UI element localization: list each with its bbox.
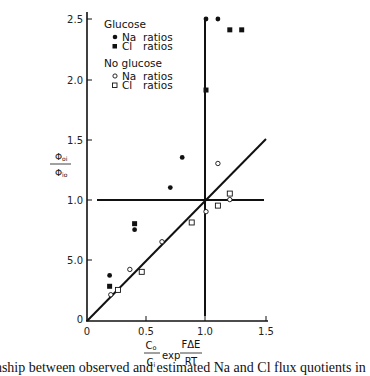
open-circle-point [216,161,220,165]
filled-circle-point [204,17,209,22]
filled-circle-point [216,17,221,22]
svg-text:ratios: ratios [143,79,173,91]
filled-circle-point [180,155,185,160]
y-tick-label: 1.0 [67,195,83,206]
y-tick-label: 1.5 [67,135,83,146]
open-circle-point [109,293,113,297]
filled-circle-point [132,227,137,232]
svg-text:Co: Co [146,340,157,352]
figure-caption: lationship between observed and estimate… [0,360,370,376]
filled-square-point [239,27,244,32]
svg-text:Φoi: Φoi [55,152,68,162]
identity-line [87,139,266,321]
open-square-icon [113,83,118,88]
open-square-point [227,191,232,196]
y-tick-label: 2.5 [67,14,83,25]
open-circle-point [128,267,132,271]
filled-square-point [107,284,112,289]
open-square-point [139,269,144,274]
svg-text:FΔE: FΔE [182,339,201,350]
y-ticks: 2.5 2.0 1.5 1.0 5.0 0 [67,14,92,325]
filled-circle-point [168,185,173,190]
svg-text:Φio: Φio [55,168,68,178]
open-square-point [115,287,120,292]
filled-square-point [204,88,209,93]
x-tick-label: 1.5 [258,326,274,337]
filled-square-icon [113,44,118,49]
x-ticks: 0 0.5 1.0 1.5 [84,316,274,337]
legend: Glucose Na ratios Cl ratios No glucose N… [104,18,173,91]
open-circle-point [160,240,164,244]
y-tick-label: 0 [77,314,83,325]
legend-group-no-glucose-title: No glucose [104,57,162,69]
svg-text:Cl: Cl [122,79,132,91]
x-tick-label: 0 [84,326,90,337]
legend-group-glucose-title: Glucose [104,18,146,30]
y-tick-label: 2.0 [67,75,83,86]
y-tick-label: 5.0 [67,255,83,266]
open-square-point [215,203,220,208]
x-tick-label: 0.5 [138,326,154,337]
open-circle-point [228,197,232,201]
open-circle-icon [113,74,117,78]
svg-text:ratios: ratios [143,40,173,52]
svg-text:Cl: Cl [122,40,132,52]
filled-square-point [227,27,232,32]
open-circle-point [204,209,208,213]
y-axis-label: Φoi Φio [50,152,71,178]
filled-circle-point [107,273,112,278]
open-square-point [189,220,194,225]
filled-circle-icon [113,35,118,40]
x-tick-label: 1.0 [197,326,213,337]
filled-square-point [132,221,137,226]
